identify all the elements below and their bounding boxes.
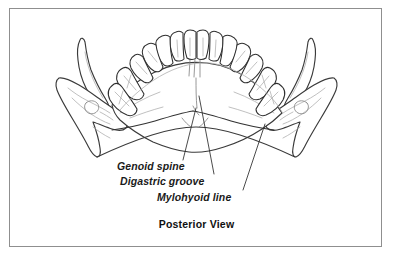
figure-caption: Posterior View bbox=[0, 218, 393, 230]
label-digastric-groove: Digastric groove bbox=[120, 175, 204, 187]
label-mylohyoid-line: Mylohyoid line bbox=[157, 191, 231, 203]
figure-root: Genoid spine Digastric groove Mylohyoid … bbox=[0, 0, 393, 263]
label-genoid-spine: Genoid spine bbox=[117, 160, 185, 172]
